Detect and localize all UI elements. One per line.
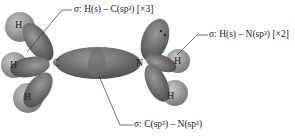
atom-h1: H — [15, 20, 22, 30]
label-cn-bond: σ: C(sp³) – N(sp³) — [134, 120, 202, 130]
atom-h3: H — [24, 92, 31, 102]
orbital-illustration — [0, 0, 295, 137]
atom-h5: H — [167, 91, 174, 101]
mo-diagram: H H H C N H H σ: H(s) – C(sp³) [×3] σ: H… — [0, 0, 295, 137]
atom-nitrogen: N — [136, 58, 143, 68]
nitrogen-group — [135, 15, 190, 106]
atom-carbon: C — [53, 58, 60, 68]
cn-sigma-orbital — [55, 47, 141, 79]
atom-h2: H — [10, 60, 17, 70]
label-ch-bond: σ: H(s) – C(sp³) [×3] — [74, 5, 153, 15]
atom-h4: H — [174, 56, 181, 66]
cn-leader-line — [99, 76, 133, 125]
label-nh-bond: σ: H(s) – N(sp³) [×2] — [209, 30, 289, 40]
